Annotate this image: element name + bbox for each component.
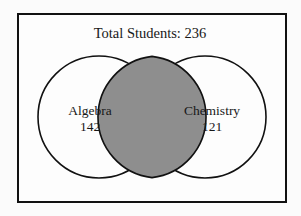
venn-diagram-canvas: Total Students: 236 Algebra 142 Chemistr… (0, 0, 301, 216)
left-set-label-name: Algebra (68, 103, 111, 118)
left-set-label-count: 142 (80, 119, 100, 134)
right-set-label-name: Chemistry (184, 103, 240, 118)
venn-diagram-figure: Total Students: 236 Algebra 142 Chemistr… (0, 0, 301, 216)
diagram-title: Total Students: 236 (94, 25, 207, 41)
right-set-label-count: 121 (202, 119, 222, 134)
